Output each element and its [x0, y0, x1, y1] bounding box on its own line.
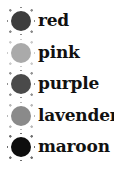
paint-splatter-icon	[11, 137, 31, 157]
color-list: red pink purple lavender maroon	[0, 0, 114, 169]
paint-splatter-icon	[11, 11, 31, 31]
list-item-lavender: lavender	[0, 100, 114, 130]
list-item-maroon: maroon	[0, 131, 114, 161]
color-label: red	[38, 8, 69, 32]
paint-splatter-icon	[11, 43, 31, 63]
color-label: pink	[38, 40, 80, 64]
color-label: purple	[38, 71, 99, 95]
list-item-pink: pink	[0, 37, 114, 67]
color-label: maroon	[38, 134, 110, 158]
list-item-red: red	[0, 5, 114, 35]
paint-splatter-icon	[11, 74, 31, 94]
paint-splatter-icon	[11, 106, 31, 126]
color-label: lavender	[38, 103, 114, 127]
list-item-purple: purple	[0, 68, 114, 98]
